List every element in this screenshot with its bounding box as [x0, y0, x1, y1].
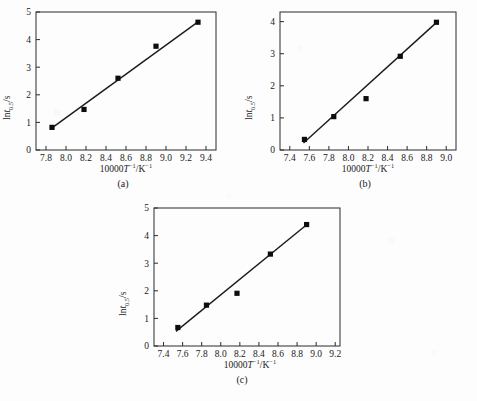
- plot-area-a: 7.88.08.28.48.68.89.09.29.4012345: [0, 2, 240, 180]
- plot-frame-a: [36, 12, 216, 150]
- y-tick-label-b-4: 4: [270, 17, 275, 27]
- data-point-c-2: [234, 291, 239, 296]
- data-point-b-3: [398, 54, 403, 59]
- y-tick-label-c-3: 3: [144, 259, 149, 269]
- chart-svg-b: 7.47.67.88.08.28.48.68.89.001234: [240, 2, 477, 180]
- plot-area-c: 7.47.67.88.08.28.48.68.89.09.2012345: [112, 198, 364, 376]
- y-tick-label-c-1: 1: [144, 314, 149, 324]
- caption-a: (a): [103, 178, 143, 189]
- y-tick-label-a-3: 3: [26, 63, 31, 73]
- data-point-c-4: [304, 222, 309, 227]
- y-tick-label-c-0: 0: [144, 341, 149, 351]
- y-tick-label-b-3: 3: [270, 49, 275, 59]
- data-point-b-1: [331, 114, 336, 119]
- chart-panel-b: 7.47.67.88.08.28.48.68.89.001234 lnt0.5/…: [240, 2, 477, 180]
- y-axis-title-b: lnt0.5/s: [244, 96, 256, 120]
- y-tick-label-a-5: 5: [26, 7, 31, 17]
- plot-frame-c: [154, 208, 340, 346]
- data-point-a-0: [49, 125, 54, 130]
- y-tick-label-b-1: 1: [270, 113, 275, 123]
- data-point-b-0: [302, 137, 307, 142]
- y-tick-label-c-4: 4: [144, 231, 149, 241]
- data-point-a-3: [153, 44, 158, 49]
- fit-line-b: [303, 22, 437, 143]
- plot-frame-b: [280, 12, 456, 150]
- y-tick-label-c-5: 5: [144, 203, 149, 213]
- y-tick-label-b-2: 2: [270, 81, 275, 91]
- caption-c: (c): [222, 374, 262, 385]
- x-axis-title-c: 10000T−1/K−1: [170, 358, 330, 370]
- x-tick-label-c-9: 9.2: [329, 349, 341, 359]
- caption-b: (b): [345, 178, 385, 189]
- y-tick-label-a-1: 1: [26, 118, 31, 128]
- chart-panel-a: 7.88.08.28.48.68.89.09.29.4012345 lnt0.5…: [0, 2, 240, 180]
- data-point-a-4: [195, 20, 200, 25]
- chart-svg-c: 7.47.67.88.08.28.48.68.89.09.2012345: [112, 198, 364, 376]
- data-point-a-2: [115, 76, 120, 81]
- data-point-a-1: [81, 107, 86, 112]
- y-tick-label-a-0: 0: [26, 145, 31, 155]
- plot-area-b: 7.47.67.88.08.28.48.68.89.001234: [240, 2, 477, 180]
- y-tick-label-c-2: 2: [144, 286, 149, 296]
- data-point-c-1: [204, 303, 209, 308]
- fit-line-c: [176, 224, 308, 331]
- fit-line-a: [52, 22, 198, 128]
- data-point-b-4: [434, 20, 439, 25]
- x-axis-title-b: 10000T−1/K−1: [288, 162, 448, 174]
- y-tick-label-a-4: 4: [26, 35, 31, 45]
- chart-panel-c: 7.47.67.88.08.28.48.68.89.09.2012345 lnt…: [112, 198, 364, 376]
- chart-svg-a: 7.88.08.28.48.68.89.09.29.4012345: [0, 2, 240, 180]
- y-axis-title-c: lnt0.5/s: [118, 292, 130, 316]
- y-axis-title-a: lnt0.5/s: [2, 96, 14, 120]
- data-point-c-0: [175, 325, 180, 330]
- x-axis-title-a: 10000T−1/K−1: [46, 162, 206, 174]
- data-point-c-3: [268, 251, 273, 256]
- y-tick-label-b-0: 0: [270, 145, 275, 155]
- y-tick-label-a-2: 2: [26, 90, 31, 100]
- data-point-b-2: [363, 96, 368, 101]
- x-tick-label-c-0: 7.4: [158, 349, 170, 359]
